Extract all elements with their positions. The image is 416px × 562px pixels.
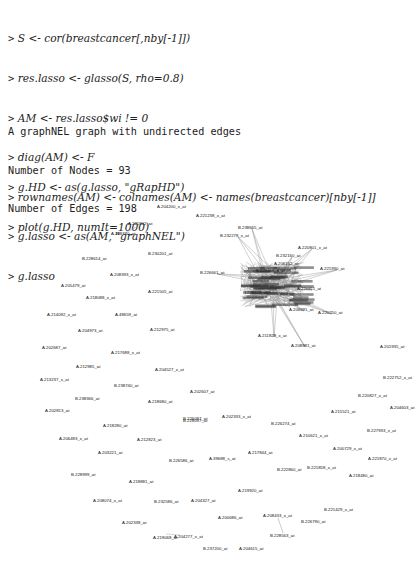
graph-node-label: A.212975_at [150,327,174,332]
graph-node-label: A.204603_at [390,405,414,410]
graph-node-label: B.220827_x_at [358,393,387,398]
graph-node-label: B.228999_at [71,472,95,477]
graph-node-label: A.202813_at [45,408,69,413]
graph-node-label: A.217688_x_at [111,350,140,355]
graph-node-label: A.214092_x_at [47,312,76,317]
graph-node-label: A.221802_at [128,221,152,226]
graph-node-label: B.222860_at [277,467,301,472]
graph-node-label: B.238665_at [238,225,262,230]
graph-node-label: A.220801_x_at [298,245,327,250]
graph-node-label: A.202333_x_at [222,414,251,419]
graph-node-label: A.48659_at [115,312,137,317]
graph-node-label: A.208393_x_at [110,272,139,277]
graph-node-label: B.232586_at [154,499,178,504]
graph-node-label: A.204527_x_at [155,367,184,372]
graph-node-label: A.221238_x_at [196,213,225,218]
graph-node-label: A.212823_at [137,437,161,442]
graph-node-label: A.208981_at [291,343,315,348]
graph-node-label: A.215521_at [331,409,355,414]
graph-node-label: A.211828_x_at [258,333,287,338]
network-graph-plot: A.204200_x_atA.221238_x_atA.221802_atA.2… [0,182,416,562]
graph-node-label: A.221870_x_at [368,456,397,461]
graph-node-label: A.206691_at [289,307,313,312]
graph-node-label: B.238740_at [114,383,138,388]
graph-node-label: A.202338_at [122,520,146,525]
graph-node-label: A.220811_at [297,286,321,291]
graph-node-label: A.206162_at [274,261,298,266]
graph-node-label: A.206483_x_at [59,436,88,441]
graph-node-label: A.218881_at [129,479,153,484]
graph-node-label: A.220250_at [318,310,342,315]
graph-node-label: B.228097_at [183,418,207,423]
graph-node-label: A.200729_x_at [333,446,362,451]
graph-node-label: B.228614_at [82,256,106,261]
graph-node-label: B.237200_at [203,546,227,551]
graph-edges [0,182,416,562]
graph-node-label: B.232278_x_at [220,233,249,238]
graph-node-label: B.221858_x_at [307,465,336,470]
graph-node-label: B.226661_at [200,270,224,275]
output-line: A graphNEL graph with undirected edges [8,126,241,139]
graph-node-label: B.228563_at [270,533,294,538]
graph-node-label: A.208340_at [111,231,135,236]
code-line: > res.lasso <- glasso(S, rho=0.8) [8,72,412,85]
graph-node-label: B.232160_at [276,253,300,258]
graph-node-label: A.213237_x_at [40,377,69,382]
graph-node-label: A.201935_at [380,344,404,349]
graph-node-label: A.218280_at [103,423,127,428]
graph-node-label: A.210621_x_at [299,433,328,438]
graph-edge [278,518,283,533]
graph-node-label: A.203221_at [98,450,122,455]
graph-node-label: A.202687_at [42,345,66,350]
graph-node-label: A.218480_at [349,473,373,478]
graph-node-label: A.217844_at [248,450,272,455]
graph-node-label: A.208433_x_at [263,513,292,518]
code-line: > S <- cor(breastcancer[,nby[-1]]) [8,32,412,45]
graph-node-label: A.200686_at [218,515,242,520]
graph-node-label: A.218680_at [148,399,172,404]
graph-node-label: A.212985_at [76,364,100,369]
graph-node-label: B.227933_x_at [367,428,396,433]
graph-node-label: B.229858_x_at [256,268,285,273]
graph-node-label: B.228510_at [243,290,267,295]
graph-node-label: A.204615_at [239,546,263,551]
graph-node-label: A.39688_s_at [209,456,236,461]
graph-node-label: A.218088_x_at [86,295,115,300]
graph-node-label: A.221505_at [148,289,172,294]
graph-node-label: A.208074_x_at [93,498,122,503]
graph-node-label: B.230201_at [148,251,172,256]
graph-node-label: A.221930_at [320,266,344,271]
graph-node-label: A.204327_at [191,498,215,503]
graph-node-label: A.204200_x_at [157,204,186,209]
graph-node-label: A.204973_at [78,328,102,333]
graph-node-label: B.226274_at [271,421,295,426]
graph-node-label: B.222752_x_at [383,375,412,380]
graph-node-label: A.219920_at [238,488,262,493]
graph-node-label: A.202607_at [190,389,214,394]
graph-node-label: B.238366_at [75,396,99,401]
graph-node-label: B.226586_at [169,458,193,463]
graph-node-label: A.205479_at [61,283,85,288]
graph-node-label: B.226790_at [301,519,325,524]
graph-node-label: B.221429_x_at [324,507,353,512]
graph-node-label: A.204277_x_at [174,534,203,539]
